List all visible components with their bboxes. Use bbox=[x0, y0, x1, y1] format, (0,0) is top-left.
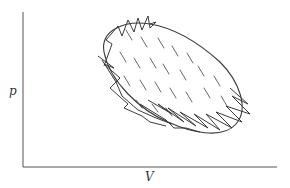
zigzag-lower bbox=[148, 88, 250, 130]
hatching bbox=[120, 30, 227, 116]
smooth-cycle bbox=[104, 23, 243, 133]
zigzag-left-2 bbox=[102, 60, 172, 124]
pv-diagram bbox=[0, 0, 290, 188]
x-axis-label: V bbox=[145, 170, 154, 184]
y-axis-label: p bbox=[9, 84, 17, 98]
